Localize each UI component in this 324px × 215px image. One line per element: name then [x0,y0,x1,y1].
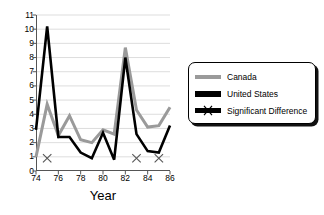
x-axis-tick-label: 82 [115,174,135,183]
y-axis-tick-label: 10 [20,25,34,34]
x-axis-tick-label: 86 [160,174,180,183]
chart-figure: 01234567891011 74767880828486 Year Canad… [0,0,324,215]
y-axis-tick-label: 3 [20,124,34,133]
series-lines [36,26,170,159]
y-axis-tick-label: 6 [20,81,34,90]
x-axis-tick-label: 80 [93,174,113,183]
y-axis-tick-label: 5 [20,96,34,105]
x-axis-title: Year [36,188,170,203]
legend-label-significant-difference: Significant Difference [227,106,307,116]
y-axis-tick-label: 11 [20,11,34,20]
y-axis-tick-labels: 01234567891011 [14,15,34,171]
legend-label-canada: Canada [227,72,257,82]
x-axis-tick-label: 84 [138,174,158,183]
significant-difference-markers [43,154,163,162]
canada-swatch [195,71,221,82]
legend-item-united-states: United States [195,85,309,102]
legend-label-united-states: United States [227,89,278,99]
y-axis-tick-label: 2 [20,138,34,147]
y-axis-tick-label: 9 [20,39,34,48]
x-axis-tick-labels: 74767880828486 [36,174,176,186]
plot-area [36,15,170,171]
legend-item-canada: Canada [195,68,309,85]
chart-legend: Canada United States Significant Differe… [188,62,316,124]
x-axis-tick-label: 76 [48,174,68,183]
y-axis-tick-label: 4 [20,110,34,119]
x-axis-tick-label: 78 [71,174,91,183]
united-states-swatch [195,88,221,99]
x-marker-icon [195,105,221,116]
significant-difference-swatch [195,105,221,116]
y-axis-tick-label: 8 [20,53,34,62]
legend-item-significant-difference: Significant Difference [195,102,309,119]
chart-plot-svg [36,15,170,171]
x-axis-tick-label: 74 [26,174,46,183]
y-axis-tick-label: 1 [20,152,34,161]
y-axis-tick-label: 7 [20,67,34,76]
